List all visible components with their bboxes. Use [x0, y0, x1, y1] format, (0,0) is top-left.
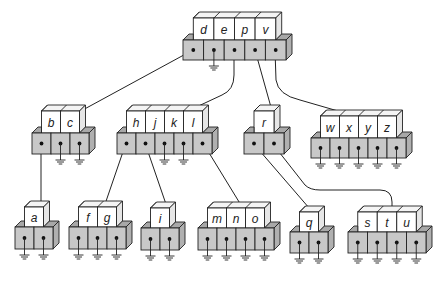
pointer-row: [348, 226, 432, 263]
pointer-cell: [309, 232, 328, 263]
key-label: w: [326, 121, 336, 135]
pointer-row: [117, 127, 218, 164]
key-row: a: [25, 201, 50, 227]
pointer-cell: [183, 40, 204, 60]
pointer-cell: [15, 227, 34, 259]
pointer-cell: [244, 133, 264, 154]
pointer-row: [141, 222, 185, 260]
node-stu: stu: [348, 206, 432, 263]
key-label: c: [67, 116, 73, 130]
pointer-cell: [264, 133, 284, 154]
pointer-dot: [144, 142, 148, 146]
pointer-cell: [255, 228, 274, 260]
pointer-cell: [69, 227, 88, 259]
node-fg: fg: [69, 201, 132, 259]
pointer-cell: [407, 232, 427, 263]
pointer-cell: [387, 138, 406, 168]
key-row: q: [300, 206, 325, 232]
key-label: m: [212, 212, 222, 226]
key-label: b: [48, 116, 55, 130]
pointer-dot: [40, 142, 44, 146]
key-label: g: [104, 211, 111, 225]
pointer-cell: [330, 138, 349, 168]
key-row: stu: [358, 206, 423, 232]
key-label: n: [233, 212, 240, 226]
key-row: i: [151, 202, 176, 228]
key-label: u: [403, 216, 410, 230]
key-label: h: [133, 116, 140, 130]
pointer-cell: [174, 133, 193, 164]
pointer-dot: [253, 48, 257, 52]
pointer-dot: [272, 142, 276, 146]
pointer-cell: [217, 228, 236, 260]
pointer-cell: [136, 133, 155, 154]
key-label: p: [240, 23, 248, 37]
pointer-dot: [233, 48, 237, 52]
pointer-cell: [349, 138, 368, 168]
b-tree-diagram: depvbchjklrwxyzafgimnoqstu: [0, 0, 444, 282]
pointer-dot: [191, 48, 195, 52]
key-label: l: [192, 116, 195, 130]
key-label: d: [200, 23, 207, 37]
pointer-dot: [201, 142, 205, 146]
pointer-row: [290, 226, 334, 263]
pointer-cell: [193, 133, 212, 154]
key-row: mno: [208, 202, 271, 228]
pointer-cell: [290, 232, 309, 263]
key-label: y: [364, 121, 372, 135]
key-row: hjkl: [127, 105, 209, 133]
tree-nodes: depvbchjklrwxyzafgimnoqstu: [15, 12, 432, 263]
key-label: z: [383, 121, 390, 135]
pointer-cell: [32, 133, 51, 154]
pointer-cell: [368, 232, 388, 263]
key-label: v: [262, 23, 269, 37]
node-mno: mno: [198, 202, 280, 260]
pointer-cell: [88, 227, 107, 259]
pointer-cell: [34, 227, 53, 259]
pointer-row: [69, 221, 132, 259]
pointer-cell: [204, 40, 225, 70]
pointer-cell: [198, 228, 217, 260]
key-label: q: [306, 216, 313, 230]
node-wxyz: wxyz: [311, 110, 412, 168]
key-row: fg: [79, 201, 123, 227]
node-a: a: [15, 201, 59, 259]
key-row: r: [254, 105, 280, 133]
key-row: bc: [42, 105, 86, 133]
key-label: a: [31, 211, 38, 225]
pointer-row: [198, 222, 280, 260]
pointer-dot: [274, 48, 278, 52]
node-r: r: [244, 105, 290, 154]
key-label: x: [345, 121, 353, 135]
pointer-row: [15, 221, 59, 259]
key-row: wxyz: [321, 110, 403, 138]
pointer-cell: [117, 133, 136, 154]
node-i: i: [141, 202, 185, 260]
key-label: o: [252, 212, 259, 226]
pointer-cell: [224, 40, 245, 60]
key-label: s: [365, 216, 371, 230]
key-label: i: [159, 212, 162, 226]
pointer-cell: [155, 133, 174, 164]
node-q: q: [290, 206, 334, 263]
key-label: k: [171, 116, 178, 130]
key-label: e: [221, 23, 228, 37]
pointer-cell: [141, 228, 160, 260]
pointer-dot: [252, 142, 256, 146]
pointer-cell: [387, 232, 407, 263]
pointer-cell: [311, 138, 330, 168]
pointer-cell: [245, 40, 266, 60]
pointer-cell: [107, 227, 126, 259]
pointer-cell: [70, 133, 89, 164]
pointer-cell: [368, 138, 387, 168]
pointer-dot: [125, 142, 129, 146]
pointer-cell: [51, 133, 70, 164]
pointer-cell: [348, 232, 368, 263]
node-hjkl: hjkl: [117, 105, 218, 164]
pointer-cell: [160, 228, 179, 260]
pointer-cell: [265, 40, 286, 60]
pointer-cell: [236, 228, 255, 260]
key-row: depv: [193, 12, 281, 40]
